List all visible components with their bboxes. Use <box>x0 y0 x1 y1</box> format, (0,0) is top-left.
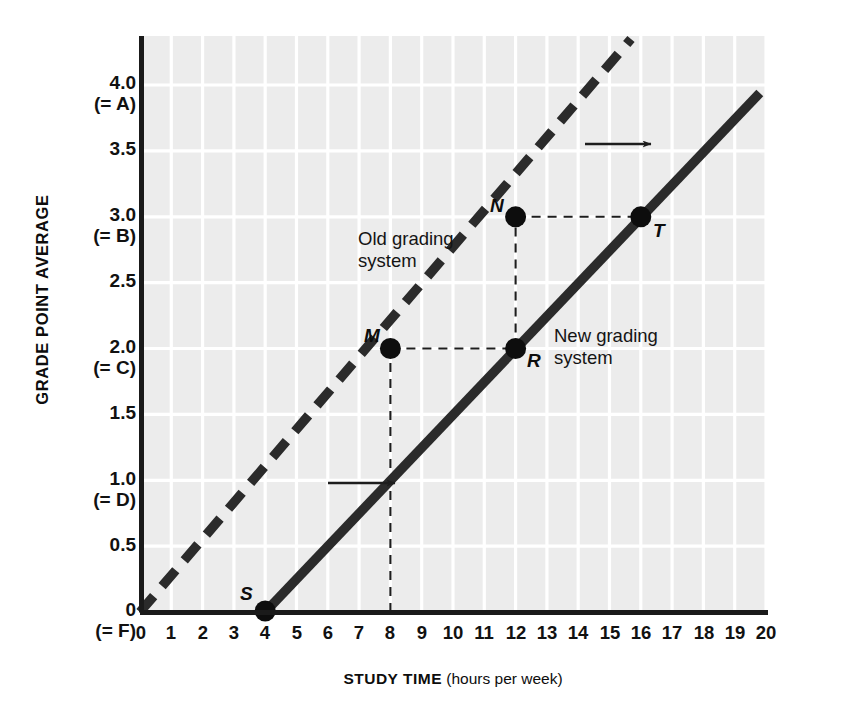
x-tick-18: 18 <box>694 622 715 644</box>
new-label-line1: New grading <box>554 325 658 347</box>
x-axis-title: STUDY TIME (hours per week) <box>140 670 766 688</box>
x-tick-14: 14 <box>568 622 589 644</box>
x-tick-9: 9 <box>417 622 427 644</box>
x-tick-8: 8 <box>385 622 395 644</box>
x-tick-15: 15 <box>600 622 621 644</box>
x-tick-20: 20 <box>756 622 777 644</box>
x-tick-3: 3 <box>229 622 239 644</box>
point-label-m: M <box>364 325 380 347</box>
old-label-line2: system <box>358 250 454 272</box>
x-tick-0: 0 <box>136 622 146 644</box>
x-axis-tick-labels: 0 1 2 3 4 5 6 7 8 9 10 11 12 13 14 15 16… <box>0 0 844 712</box>
x-tick-4: 4 <box>260 622 270 644</box>
x-tick-12: 12 <box>506 622 527 644</box>
x-tick-6: 6 <box>323 622 333 644</box>
x-tick-7: 7 <box>354 622 364 644</box>
x-tick-11: 11 <box>474 622 494 644</box>
old-grading-system-label: Old grading system <box>358 228 454 272</box>
x-tick-2: 2 <box>198 622 208 644</box>
chart-figure: GRADE POINT AVERAGE 4.0 (= A) 3.5 3.0 (=… <box>0 0 844 712</box>
x-tick-10: 10 <box>443 622 464 644</box>
point-label-t: T <box>653 220 665 242</box>
x-tick-19: 19 <box>725 622 746 644</box>
old-label-line1: Old grading <box>358 228 454 250</box>
x-tick-13: 13 <box>537 622 558 644</box>
x-tick-16: 16 <box>631 622 652 644</box>
point-label-n: N <box>490 195 504 217</box>
new-label-line2: system <box>554 347 658 369</box>
x-tick-5: 5 <box>292 622 302 644</box>
x-tick-1: 1 <box>166 622 176 644</box>
x-tick-17: 17 <box>662 622 683 644</box>
x-axis-title-main: STUDY TIME <box>343 670 442 687</box>
point-label-r: R <box>527 350 541 372</box>
x-axis-title-unit: (hours per week) <box>442 670 563 687</box>
point-label-s: S <box>240 583 253 605</box>
new-grading-system-label: New grading system <box>554 325 658 369</box>
